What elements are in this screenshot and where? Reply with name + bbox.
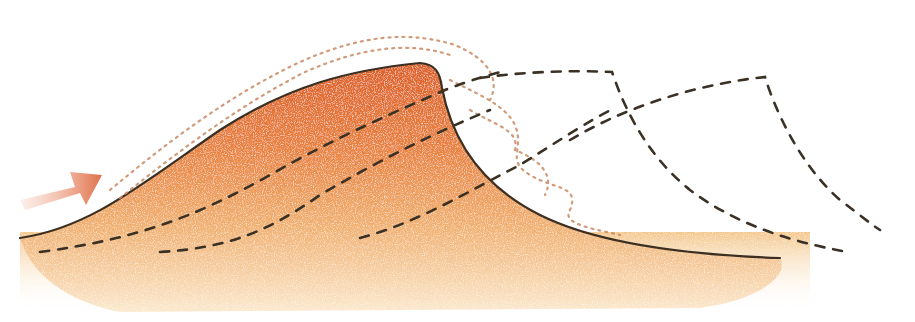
wind-arrow-icon xyxy=(20,172,102,210)
future-position-2 xyxy=(570,77,880,230)
sand-dune-diagram xyxy=(0,0,915,322)
dune-body xyxy=(20,63,782,312)
